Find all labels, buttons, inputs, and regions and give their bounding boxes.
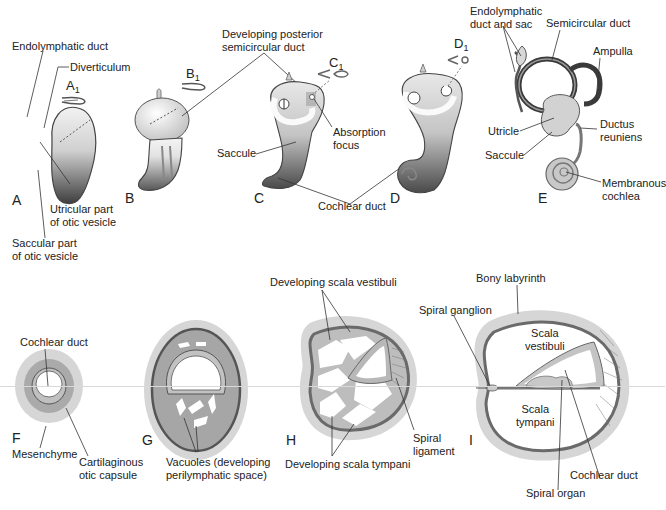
label-endolymphatic-duct-a: Endolymphatic duct: [12, 40, 108, 53]
panel-a-otic-vesicle: [52, 97, 96, 203]
label-saccule-c: Saccule: [217, 147, 256, 160]
subfigure-c1: C1: [329, 55, 343, 72]
label-vacuoles: Vacuoles (developing perilymphatic space…: [166, 456, 270, 482]
label-developing-scala-tympani: Developing scala tympani: [285, 458, 410, 471]
label-spiral-ganglion: Spiral ganglion: [419, 304, 492, 317]
panel-letter-h: H: [286, 432, 296, 448]
label-saccule-e: Saccule: [485, 149, 524, 162]
panel-letter-f: F: [12, 430, 21, 446]
panel-letter-d: D: [390, 190, 400, 206]
label-absorption-focus: Absorption focus: [333, 126, 386, 152]
scan-line-artifact: [0, 386, 665, 387]
panel-h-cross-section: [300, 316, 417, 440]
label-cochlear-duct-shared: Cochlear duct: [318, 200, 386, 213]
label-ductus-reuniens: Ductus reuniens: [600, 118, 642, 144]
label-developing-scala-vestibuli: Developing scala vestibuli: [270, 276, 397, 289]
label-spiral-organ: Spiral organ: [526, 487, 585, 500]
label-saccular-part: Saccular part of otic vesicle: [12, 237, 78, 263]
label-utricle: Utricle: [488, 125, 519, 138]
label-utricular-part: Utricular part of otic vesicle: [50, 203, 116, 229]
label-developing-posterior-semicircular-duct: Developing posterior semicircular duct: [222, 28, 323, 54]
panel-d-vesicle: [398, 56, 468, 193]
subfigure-d1: D1: [454, 36, 468, 53]
label-scala-tympani: Scala tympani: [516, 403, 555, 429]
label-cochlear-duct-f: Cochlear duct: [20, 336, 88, 349]
label-endolymphatic-duct-and-sac: Endolymphatic duct and sac: [470, 5, 542, 31]
panel-letter-e: E: [538, 190, 547, 206]
panel-letter-b: B: [125, 190, 134, 206]
label-cartilaginous-otic-capsule: Cartilaginous otic capsule: [79, 456, 143, 482]
label-bony-labyrinth: Bony labyrinth: [476, 272, 546, 285]
panel-letter-a: A: [12, 192, 21, 208]
panel-g-cross-section: [144, 320, 248, 460]
panel-e-membranous-labyrinth: [515, 46, 600, 190]
label-scala-vestibuli: Scala vestibuli: [525, 327, 565, 353]
panel-letter-c: C: [254, 190, 264, 206]
panel-letter-g: G: [142, 432, 153, 448]
label-mesenchyme: Mesenchyme: [12, 448, 77, 461]
label-ampulla: Ampulla: [593, 45, 633, 58]
label-membranous-cochlea: Membranous cochlea: [602, 177, 666, 203]
subfigure-a1: A1: [66, 78, 80, 95]
label-spiral-ligament: Spiral ligament: [413, 432, 455, 458]
subfigure-b1: B1: [186, 66, 200, 83]
label-semicircular-duct: Semicircular duct: [546, 17, 630, 30]
panel-b-vesicle: [135, 83, 205, 190]
label-diverticulum: Diverticulum: [70, 61, 131, 74]
label-cochlear-duct-i: Cochlear duct: [570, 469, 638, 482]
panel-letter-i: I: [469, 432, 473, 448]
